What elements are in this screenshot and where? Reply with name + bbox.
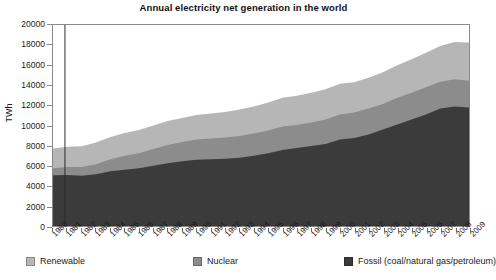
legend-item-nuclear: Nuclear	[193, 256, 238, 266]
y-tick-label: 8000	[26, 142, 45, 151]
y-tick-label: 12000	[21, 101, 45, 110]
x-tick-label: 2009	[469, 220, 487, 238]
legend-label-renewable: Renewable	[40, 256, 85, 266]
y-tick-label: 18000	[21, 40, 45, 49]
y-tick-label: 4000	[26, 182, 45, 191]
y-tick-label: 6000	[26, 162, 45, 171]
y-tick-label: 20000	[21, 20, 45, 29]
legend-swatch-nuclear	[193, 257, 202, 266]
legend-item-renewable: Renewable	[26, 256, 85, 266]
y-tick-label: 2000	[26, 203, 45, 212]
plot-area	[52, 24, 470, 227]
legend-item-fossil: Fossil (coal/natural gas/petroleum)	[344, 256, 496, 266]
legend-label-fossil: Fossil (coal/natural gas/petroleum)	[358, 256, 496, 266]
chart-title: Annual electricity net generation in the…	[0, 2, 487, 13]
legend-label-nuclear: Nuclear	[207, 256, 238, 266]
y-tick-label: 0	[40, 223, 45, 232]
stacked-area-plot	[53, 25, 469, 226]
y-tick-label: 14000	[21, 81, 45, 90]
y-tick-label: 16000	[21, 61, 45, 70]
y-tick-label: 10000	[21, 122, 45, 131]
legend-swatch-fossil	[344, 257, 353, 266]
chart-legend: Renewable Nuclear Fossil (coal/natural g…	[26, 256, 481, 272]
legend-swatch-renewable	[26, 257, 35, 266]
y-axis-title: TWh	[4, 90, 14, 136]
